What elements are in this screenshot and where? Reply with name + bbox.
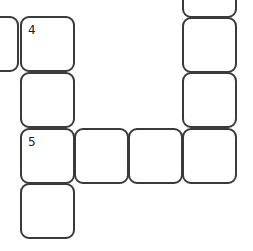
crossword-cell-4-start[interactable]: 4 (20, 16, 75, 72)
crossword-cell[interactable] (0, 16, 19, 72)
crossword-cell[interactable] (128, 128, 183, 184)
crossword-cell[interactable] (74, 128, 129, 184)
crossword-cell[interactable] (20, 183, 75, 239)
crossword-cell-5-start[interactable]: 5 (20, 128, 75, 184)
crossword-cell[interactable] (182, 72, 237, 128)
clue-number-4: 4 (28, 24, 36, 36)
crossword-cell[interactable] (182, 128, 237, 184)
crossword-cell[interactable] (182, 17, 237, 73)
crossword-cell[interactable] (20, 72, 75, 128)
clue-number-5: 5 (28, 136, 36, 148)
crossword-grid: 4 5 (0, 0, 253, 251)
crossword-cell[interactable] (182, 0, 237, 18)
